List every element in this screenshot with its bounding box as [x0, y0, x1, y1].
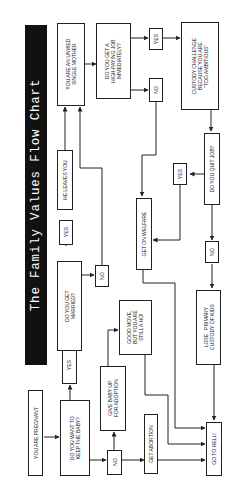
node-yes-married-label: YES	[63, 227, 69, 237]
node-yes-married: YES	[59, 220, 73, 245]
flowchart: The Family Values Flow Chart YOU ARE PRE…	[0, 0, 238, 501]
node-hell: GO TO HELL!	[206, 422, 222, 476]
node-abortion: GET ABORTION	[144, 414, 158, 474]
node-high-paying-job-label: DO YOU GET A HIGH-PAYING JOB IMMEDIATELY…	[104, 39, 123, 83]
chart-title: The Family Values Flow Chart	[25, 25, 47, 365]
node-get-married-label: DO YOU GET MARRIED?	[63, 290, 75, 321]
node-good-move: GOOD MOVE, BUT YOU ARE STILL A HO!	[119, 300, 152, 355]
chart-title-text: The Family Values Flow Chart	[29, 79, 43, 311]
node-no-quit-label: NO	[209, 248, 215, 256]
node-custody-challenge: CUSTODY CHALLENGE BECAUSE YOU ARE "TOO A…	[181, 22, 219, 110]
node-high-paying-job: DO YOU GET A HIGH-PAYING JOB IMMEDIATELY…	[96, 23, 131, 99]
node-pregnant: YOU ARE PREGNANT	[28, 390, 43, 476]
node-no-keep: NO	[107, 450, 122, 475]
node-lose-custody-label: LOSE PRIMARY CUSTODY OF KIDS	[202, 305, 214, 351]
node-yes-job: YES	[149, 28, 163, 50]
node-yes-job-label: YES	[153, 34, 159, 44]
node-pregnant-label: YOU ARE PREGNANT	[32, 407, 38, 459]
node-unwed-mother: YOU ARE AN UNWED SINGLE MOTHER	[57, 23, 85, 106]
node-quit-job: DO YOU QUIT JOB?	[204, 133, 220, 205]
node-no-job-label: NO	[153, 86, 159, 94]
node-unwed-mother-label: YOU ARE AN UNWED SINGLE MOTHER	[65, 39, 77, 90]
node-yes-keep-label: YES	[66, 360, 72, 370]
node-quit-job-label: DO YOU QUIT JOB?	[209, 146, 215, 193]
node-he-leaves-label: HE LEAVES YOU	[62, 160, 68, 200]
node-no-keep-label: NO	[111, 459, 117, 467]
node-welfare-label: GET ON WELFARE	[141, 212, 147, 257]
node-keep-baby-label: DO YOU WANT TO KEEP THE BABY?	[69, 416, 81, 460]
node-get-married: DO YOU GET MARRIED?	[57, 261, 82, 351]
node-yes-quit: YES	[173, 163, 187, 185]
node-good-move-label: GOOD MOVE, BUT YOU ARE STILL A HO!	[126, 311, 145, 345]
node-lose-custody: LOSE PRIMARY CUSTODY OF KIDS	[196, 290, 221, 365]
node-no-job: NO	[149, 78, 163, 102]
node-yes-keep: YES	[62, 346, 77, 384]
node-keep-baby: DO YOU WANT TO KEEP THE BABY?	[60, 400, 90, 476]
node-abortion-label: GET ABORTION	[148, 425, 154, 463]
node-no-married: NO	[95, 265, 109, 287]
node-adoption: GIVE BABY UP FOR ADOPTION	[100, 366, 126, 431]
node-hell-label: GO TO HELL!	[211, 433, 217, 464]
node-he-leaves: HE LEAVES YOU	[57, 150, 73, 210]
node-welfare: GET ON WELFARE	[136, 198, 152, 270]
node-no-quit: NO	[205, 241, 219, 263]
node-custody-challenge-label: CUSTODY CHALLENGE BECAUSE YOU ARE "TOO A…	[191, 38, 210, 94]
node-adoption-label: GIVE BABY UP FOR ADOPTION	[107, 380, 119, 418]
node-yes-quit-label: YES	[177, 169, 183, 179]
node-no-married-label: NO	[99, 272, 105, 280]
